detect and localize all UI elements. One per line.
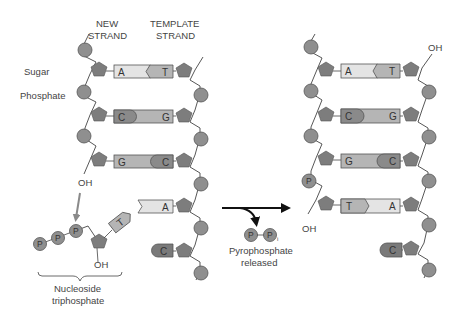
sugar-pentagon bbox=[403, 107, 419, 121]
phosphate-circle bbox=[194, 88, 208, 102]
base-pair-c-g: C G bbox=[114, 110, 173, 123]
sugar-pentagon bbox=[176, 243, 192, 257]
svg-text:i: i bbox=[277, 236, 278, 242]
pyrophosphate-label-2: released bbox=[241, 257, 277, 268]
oh-label: OH bbox=[78, 177, 92, 188]
base-pair-g-c: G C bbox=[114, 155, 173, 168]
phosphate-circle bbox=[77, 85, 91, 99]
svg-text:C: C bbox=[389, 245, 396, 256]
strand-headers: NEW STRAND TEMPLATE STRAND bbox=[88, 18, 199, 41]
phosphate-label: Phosphate bbox=[20, 90, 65, 101]
svg-text:C: C bbox=[162, 157, 169, 168]
sugar-pentagon bbox=[91, 62, 107, 76]
svg-text:P: P bbox=[73, 226, 79, 236]
phosphate-circle bbox=[304, 129, 318, 143]
sugar-pentagon bbox=[176, 198, 192, 212]
dna-replication-diagram: NEW STRAND TEMPLATE STRAND Sugar Phospha… bbox=[0, 0, 469, 315]
phosphate-circle bbox=[304, 84, 318, 98]
phosphate-circle bbox=[422, 174, 436, 188]
svg-text:T: T bbox=[162, 67, 168, 78]
svg-text:A: A bbox=[345, 66, 352, 77]
template-base-a: A bbox=[138, 200, 173, 213]
phosphate-circle bbox=[78, 43, 92, 57]
svg-text:G: G bbox=[118, 157, 126, 168]
sugar-pentagon bbox=[403, 197, 419, 211]
sugar-pentagon bbox=[176, 108, 192, 122]
svg-text:P: P bbox=[55, 233, 61, 243]
svg-text:G: G bbox=[162, 112, 170, 123]
sugar-pentagon bbox=[91, 152, 107, 166]
svg-text:A: A bbox=[389, 201, 396, 212]
new-strand-label-1: NEW bbox=[96, 18, 118, 29]
sugar-pentagon bbox=[91, 107, 107, 121]
phosphate-circle bbox=[194, 177, 208, 191]
sugar-pentagon bbox=[403, 152, 419, 166]
sugar-pentagon bbox=[318, 107, 334, 121]
svg-text:G: G bbox=[345, 156, 353, 167]
template-strand-label-1: TEMPLATE bbox=[150, 18, 199, 29]
sugar-pentagon bbox=[403, 62, 419, 76]
base-pair-c-g: C G bbox=[341, 109, 400, 123]
svg-text:C: C bbox=[118, 112, 125, 123]
nucleoside-label-2: triphosphate bbox=[52, 295, 104, 306]
phosphate-circle bbox=[304, 40, 318, 54]
phosphate-circle bbox=[422, 130, 436, 144]
reaction-arrow: P P i Pyrophosphate released bbox=[222, 208, 293, 268]
phosphate-circle bbox=[194, 132, 208, 146]
phosphate-circle bbox=[77, 129, 91, 143]
sugar-pentagon bbox=[403, 241, 419, 255]
svg-text:C: C bbox=[345, 111, 352, 122]
base-pair-a-t: A T bbox=[114, 65, 173, 78]
svg-text:P: P bbox=[306, 176, 312, 186]
nucleoside-triphosphate: P P P T OH Nucleoside triphosphate bbox=[34, 209, 134, 306]
svg-text:G: G bbox=[389, 111, 397, 122]
sugar-pentagon bbox=[318, 151, 334, 165]
svg-text:P: P bbox=[267, 230, 273, 240]
svg-text:T: T bbox=[389, 66, 395, 77]
new-strand-label-2: STRAND bbox=[88, 30, 127, 41]
incoming-base-t: T bbox=[108, 209, 134, 233]
sugar-label: Sugar bbox=[24, 66, 49, 77]
nucleoside-label-1: Nucleoside bbox=[54, 283, 101, 294]
base-pair-t-a: T A bbox=[341, 199, 400, 213]
sugar-pentagon bbox=[318, 196, 334, 210]
sugar-pentagon bbox=[318, 62, 334, 76]
oh-label-2: OH bbox=[94, 259, 108, 270]
svg-text:P: P bbox=[248, 230, 254, 240]
left-molecule: Sugar Phosphate OH A T C G G bbox=[20, 34, 208, 306]
phosphate-circle bbox=[422, 85, 436, 99]
template-base-c: C bbox=[152, 244, 174, 257]
base-pair-g-c: G C bbox=[341, 154, 400, 168]
sugar-pentagon bbox=[91, 234, 107, 248]
svg-text:P: P bbox=[37, 239, 43, 249]
template-strand-label-2: STRAND bbox=[156, 30, 195, 41]
phosphate-circle bbox=[422, 218, 436, 232]
pyrophosphate-label-1: Pyrophosphate bbox=[229, 245, 293, 256]
svg-text:C: C bbox=[389, 156, 396, 167]
svg-text:A: A bbox=[162, 202, 169, 213]
phosphate-circle bbox=[194, 266, 208, 280]
phosphate-circle bbox=[194, 221, 208, 235]
oh-label-4: OH bbox=[428, 42, 442, 53]
svg-text:A: A bbox=[118, 67, 125, 78]
sugar-pentagon bbox=[176, 63, 192, 77]
sugar-pentagon bbox=[176, 153, 192, 167]
base-pair-a-t: A T bbox=[341, 64, 400, 78]
bracket bbox=[38, 272, 122, 281]
right-molecule: P OH A T C G G C T A bbox=[302, 34, 442, 278]
phosphate-circle bbox=[422, 263, 436, 277]
oh-label-3: OH bbox=[302, 223, 316, 234]
svg-text:T: T bbox=[346, 201, 352, 212]
bond-arrow bbox=[76, 193, 80, 218]
template-base-c: C bbox=[380, 243, 402, 257]
svg-text:C: C bbox=[160, 246, 167, 257]
